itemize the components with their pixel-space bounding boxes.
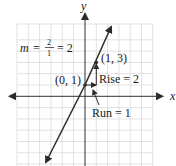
point-label-0-1: (0, 1) [55, 73, 81, 87]
run-label: Run = 1 [92, 106, 131, 120]
slope-equals: = [33, 41, 40, 55]
slope-numerator: 2 [47, 38, 51, 47]
y-axis-label: y [80, 0, 87, 13]
rise-label: Rise = 2 [99, 72, 139, 86]
slope-result: = 2 [57, 41, 73, 55]
point-1-3 [95, 61, 99, 65]
slope-variable: m [20, 41, 29, 55]
axes [10, 14, 162, 166]
slope-diagram: y x m = 2 1 = 2 (1, 3) (0, 1) Rise = 2 R… [0, 0, 176, 166]
point-label-1-3: (1, 3) [101, 51, 127, 65]
slope-denominator: 1 [47, 49, 51, 58]
x-axis-label: x [169, 89, 176, 103]
